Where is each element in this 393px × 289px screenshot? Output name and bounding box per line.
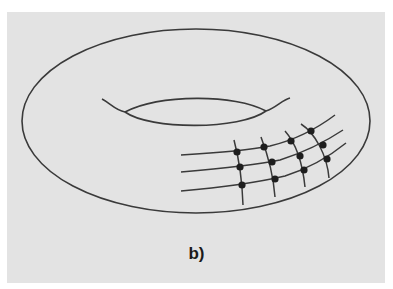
- grid-node: [287, 137, 294, 144]
- grid-node: [323, 155, 330, 162]
- torus-hole-upper-arc: [102, 98, 290, 112]
- torus-hole-lower-arc: [125, 111, 266, 125]
- grid-horizontal-line: [181, 130, 343, 172]
- grid-node: [233, 148, 240, 155]
- grid-node: [319, 141, 326, 148]
- grid-node: [296, 152, 303, 159]
- grid-node: [238, 181, 245, 188]
- grid-nodes: [233, 127, 330, 188]
- grid-node: [260, 143, 267, 150]
- grid-node: [300, 166, 307, 173]
- grid-horizontal-lines: [181, 115, 346, 191]
- grid-node: [236, 163, 243, 170]
- grid-node: [271, 175, 278, 182]
- torus-outer-outline: [22, 29, 370, 213]
- grid-node: [307, 127, 314, 134]
- grid-node: [268, 158, 275, 165]
- figure-caption: b): [0, 244, 393, 264]
